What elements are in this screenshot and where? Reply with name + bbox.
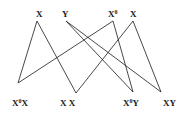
top-node-x0: X0 [108,9,118,19]
edge-x2-to-xx [76,21,133,93]
top-node-x: X [36,9,43,19]
bottom-node-x0y: X0Y [123,98,140,108]
top-node-x0-sup: 0 [115,9,118,15]
top-node-y: Y [62,9,69,19]
edge-x-to-xx [37,21,76,93]
bottom-node-xy: XY [163,98,176,108]
bottom-node-x0y-b: Y [133,98,140,108]
top-node-x-2: X [130,9,137,19]
mating-diagram: X Y X0 X X0X X X X0Y XY [0,0,189,118]
bottom-node-xx: X X [60,98,76,108]
edge-x-to-x0x [18,21,37,83]
bottom-node-x0x-b: X [22,98,29,108]
bottom-node-x0x: X0X [12,98,29,108]
